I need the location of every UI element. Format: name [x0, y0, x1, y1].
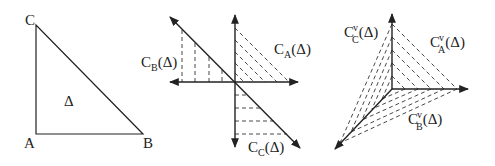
vertex-label-a: A — [24, 135, 35, 151]
cone-c-label: CC(Δ) — [248, 139, 284, 158]
diagram: C A B Δ CB(Δ) — [0, 0, 495, 166]
triangle-delta-label: Δ — [64, 93, 74, 109]
cone-b-hatch — [182, 30, 222, 82]
dual-cone-c-label: CvC(Δ) — [344, 22, 378, 45]
triangle — [36, 25, 143, 134]
dual-cones-panel: CvC(Δ) CvA(Δ) CvB(Δ) — [335, 14, 468, 149]
vertex-label-c: C — [25, 12, 35, 28]
cone-c-hatch — [235, 95, 287, 134]
down-left-axis — [335, 89, 392, 149]
cone-b-label: CB(Δ) — [141, 54, 177, 73]
dual-cone-b-label: CvB(Δ) — [408, 109, 442, 132]
vertex-label-b: B — [143, 135, 153, 151]
cones-panel: CB(Δ) CA(Δ) CC(Δ) — [141, 15, 311, 158]
cone-a-label: CA(Δ) — [274, 41, 311, 60]
dual-cone-a-label: CvA(Δ) — [430, 32, 465, 55]
triangle-panel: C A B Δ — [24, 12, 153, 151]
